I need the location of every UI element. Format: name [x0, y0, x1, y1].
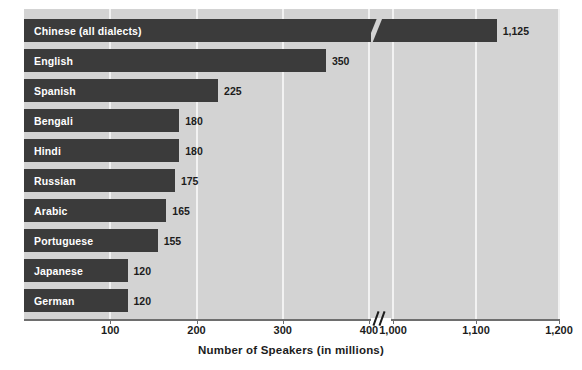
bar-value-label: 180	[185, 115, 203, 127]
bar-value-label: 180	[185, 145, 203, 157]
bar-row[interactable]: German120	[24, 289, 559, 312]
x-tick-label: 300	[274, 324, 292, 336]
bar-german[interactable]	[24, 289, 128, 312]
bar-break-slash-line	[371, 18, 384, 43]
bar-break-slash	[371, 18, 384, 43]
x-tick-label: 1,200	[545, 324, 573, 336]
bar-row[interactable]: Spanish225	[24, 79, 559, 102]
x-tick-label: 200	[187, 324, 205, 336]
bar-row[interactable]: Japanese120	[24, 259, 559, 282]
bar-row[interactable]: Bengali180	[24, 109, 559, 132]
x-axis-line	[24, 319, 559, 321]
x-tick-label: 1,100	[462, 324, 490, 336]
bar-bengali[interactable]	[24, 109, 179, 132]
bar-row[interactable]: Russian175	[24, 169, 559, 192]
bar-value-label: 120	[134, 295, 152, 307]
bar-spanish[interactable]	[24, 79, 218, 102]
x-tick-label: 100	[101, 324, 119, 336]
x-tick-label: 400	[360, 324, 378, 336]
bar-hindi[interactable]	[24, 139, 179, 162]
bar-value-label: 1,125	[503, 25, 529, 37]
bar-japanese[interactable]	[24, 259, 128, 282]
bar-english[interactable]	[24, 49, 326, 72]
bar-row[interactable]: Chinese (all dialects)1,125	[24, 19, 559, 42]
bar-row[interactable]: Portuguese155	[24, 229, 559, 252]
bar-row[interactable]: Arabic165	[24, 199, 559, 222]
bar-value-label: 165	[172, 205, 190, 217]
bar-value-label: 120	[134, 265, 152, 277]
bar-row[interactable]: English350	[24, 49, 559, 72]
x-axis-title: Number of Speakers (in millions)	[0, 344, 582, 356]
bar-chart-figure: Chinese (all dialects)1,125English350Spa…	[0, 0, 582, 370]
bar-russian[interactable]	[24, 169, 175, 192]
bar-value-label: 175	[181, 175, 199, 187]
bar-value-label: 155	[164, 235, 182, 247]
bar-arabic[interactable]	[24, 199, 166, 222]
plot-area: Chinese (all dialects)1,125English350Spa…	[24, 9, 559, 319]
bar-portuguese[interactable]	[24, 229, 158, 252]
bar-value-label: 350	[332, 55, 350, 67]
bar-chinese-all-dialects[interactable]	[24, 19, 497, 42]
bar-value-label: 225	[224, 85, 242, 97]
x-tick-label: 1,000	[379, 324, 407, 336]
bar-row[interactable]: Hindi180	[24, 139, 559, 162]
